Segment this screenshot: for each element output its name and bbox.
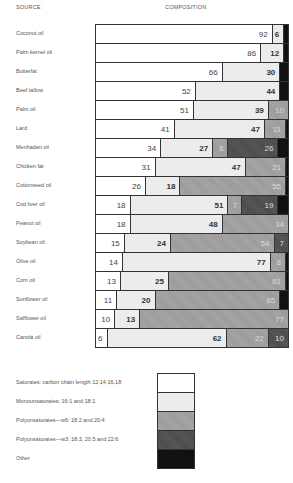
bar-segment: 47 xyxy=(156,158,246,176)
bar-segment: 77 xyxy=(140,310,288,328)
category-label: Chicken fat xyxy=(16,163,44,169)
bar-segment: 10 xyxy=(96,310,115,328)
bar-segment xyxy=(286,253,288,271)
bar-segment: 44 xyxy=(196,82,280,100)
bar-segment: 10 xyxy=(269,101,288,119)
bar-segment: 48 xyxy=(131,215,223,233)
bar-segment: 8 xyxy=(213,139,228,157)
bar-row: 8612 xyxy=(96,44,288,63)
bar-segment: 18 xyxy=(96,215,131,233)
category-label: Menhaden oil xyxy=(16,144,49,150)
bar-row: 3427826 xyxy=(96,139,288,158)
bar-segment: 30 xyxy=(223,63,281,81)
bar-segment: 26 xyxy=(228,139,278,157)
bar-segment: 27 xyxy=(161,139,213,157)
bar-row: 14778 xyxy=(96,253,288,272)
bar-segment: 66 xyxy=(96,63,223,81)
category-label: Lard xyxy=(16,125,27,131)
category-label: Coconut oil xyxy=(16,30,44,36)
category-label: Palm oil xyxy=(16,106,36,112)
legend-swatch xyxy=(158,450,194,468)
bar-segment xyxy=(280,63,288,81)
bar-row: 132561 xyxy=(96,272,288,291)
bar-segment xyxy=(280,82,288,100)
bar-segment xyxy=(278,139,288,157)
legend-swatches xyxy=(157,373,195,469)
bar-segment xyxy=(286,177,288,195)
bar-segment: 19 xyxy=(242,196,278,214)
bar-segment: 18 xyxy=(96,196,131,214)
bar-segment: 65 xyxy=(156,291,281,309)
legend-swatch xyxy=(158,431,194,450)
legend-label: Polyunsaturates—w6: 18:2 and 20:4 xyxy=(16,417,105,423)
bar-segment: 6 xyxy=(96,329,108,347)
bar-segment: 14 xyxy=(96,253,123,271)
bar-segment: 77 xyxy=(123,253,271,271)
bar-row: 6622210 xyxy=(96,329,288,347)
bar-row: 1851719 xyxy=(96,196,288,215)
bar-segment: 34 xyxy=(96,139,161,157)
category-label: Cod liver oil xyxy=(16,201,45,207)
bar-segment: 47 xyxy=(175,120,265,138)
category-label: Beef tallow xyxy=(16,87,43,93)
bar-segment xyxy=(284,44,288,62)
legend-swatch xyxy=(158,374,194,393)
bar-segment xyxy=(286,158,288,176)
category-label: Palm kernel oil xyxy=(16,49,52,55)
category-label: Butterfat xyxy=(16,68,37,74)
bar-row: 5244 xyxy=(96,82,288,101)
bar-row: 513910 xyxy=(96,101,288,120)
bar-row: 414711 xyxy=(96,120,288,139)
legend-swatch xyxy=(158,412,194,431)
bar-segment: 13 xyxy=(96,272,121,290)
bar-segment: 21 xyxy=(246,158,286,176)
category-label: Olive oil xyxy=(16,258,36,264)
bar-segment: 24 xyxy=(125,234,171,252)
bar-segment: 15 xyxy=(96,234,125,252)
bar-segment: 25 xyxy=(121,272,169,290)
category-label: Sunflower oil xyxy=(16,296,48,302)
bar-segment: 26 xyxy=(96,177,146,195)
bar-row: 101377 xyxy=(96,310,288,329)
bar-segment xyxy=(280,291,288,309)
category-label: Canola oil xyxy=(16,334,40,340)
category-label: Safflower oil xyxy=(16,315,46,321)
bar-segment: 52 xyxy=(96,82,196,100)
category-label: Corn oil xyxy=(16,277,35,283)
bar-segment: 86 xyxy=(96,44,261,62)
bar-row: 1524547 xyxy=(96,234,288,253)
bar-row: 6630 xyxy=(96,63,288,82)
bar-row: 314721 xyxy=(96,158,288,177)
category-label: Peanut oil xyxy=(16,220,40,226)
source-header: SOURCE xyxy=(16,4,41,10)
bar-row: 112065 xyxy=(96,291,288,310)
bar-segment: 31 xyxy=(96,158,156,176)
bar-segment: 39 xyxy=(194,101,269,119)
bar-segment: 34 xyxy=(223,215,288,233)
bar-segment: 20 xyxy=(117,291,155,309)
bar-segment: 41 xyxy=(96,120,175,138)
bar-row: 926 xyxy=(96,25,288,44)
bar-segment: 22 xyxy=(227,329,269,347)
legend-label: Monounsaturates: 16:1 and 18:1 xyxy=(16,398,95,404)
bar-segment: 12 xyxy=(261,44,284,62)
bar-segment: 7 xyxy=(275,234,288,252)
bar-segment: 11 xyxy=(265,120,286,138)
bar-segment: 51 xyxy=(131,196,229,214)
bar-segment: 6 xyxy=(273,25,285,43)
bar-row: 184834 xyxy=(96,215,288,234)
legend-swatch xyxy=(158,393,194,412)
legend-label: Other xyxy=(16,455,30,461)
category-label: Cottonseed oil xyxy=(16,182,51,188)
bar-segment: 13 xyxy=(115,310,140,328)
category-label: Soybean oil xyxy=(16,239,45,245)
bar-segment: 61 xyxy=(169,272,286,290)
bar-segment: 51 xyxy=(96,101,194,119)
bar-segment xyxy=(284,25,288,43)
bar-segment: 11 xyxy=(96,291,117,309)
bar-segment xyxy=(286,272,288,290)
legend-label: Saturates: carbon chain length 12,14,16,… xyxy=(16,379,121,385)
bar-segment: 54 xyxy=(171,234,275,252)
bar-segment: 92 xyxy=(96,25,273,43)
bar-segment xyxy=(286,120,288,138)
